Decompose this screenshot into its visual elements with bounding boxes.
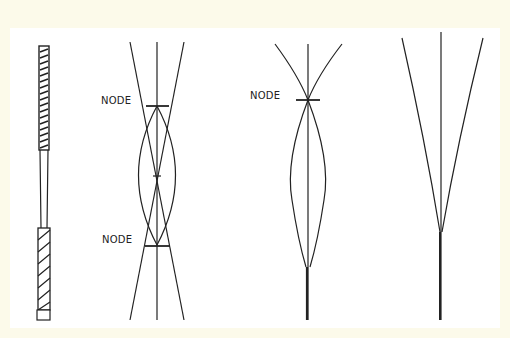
two-node-vibration [130, 42, 184, 320]
one-node-vibration [275, 44, 342, 320]
node-label: NODE [101, 95, 131, 106]
node-label: NODE [102, 234, 132, 245]
fixed-end-vibration [402, 32, 483, 320]
reed-rod [37, 46, 50, 320]
vibration-diagram [0, 0, 510, 338]
node-label: NODE [250, 90, 280, 101]
